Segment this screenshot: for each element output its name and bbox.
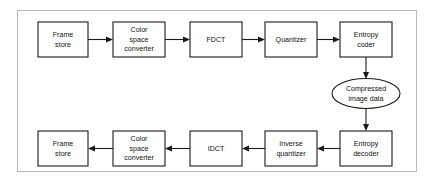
node-color-space-converter-in-line2: space [130, 36, 149, 44]
node-color-space-converter-out-line1: Color [131, 135, 149, 143]
node-entropy-coder-line2: coder [357, 41, 375, 49]
node-color-space-converter-out-line2: space [130, 145, 149, 153]
node-idct-label: IDCT [208, 145, 225, 153]
node-inverse-quantizer-line2: quantizer [276, 150, 306, 158]
node-compressed-image-data-line2: image data [348, 95, 383, 103]
node-fdct-label: FDCT [207, 36, 227, 44]
node-frame-store-in-line2: store [55, 41, 71, 49]
node-color-space-converter-in-line1: Color [131, 26, 149, 34]
node-frame-store-out-line2: store [55, 150, 71, 158]
node-entropy-coder [340, 22, 392, 57]
diagram-canvas: Frame store Color space converter FDCT Q… [0, 0, 433, 184]
node-entropy-decoder [340, 131, 392, 166]
node-frame-store-in-line1: Frame [53, 31, 74, 39]
node-inverse-quantizer [265, 131, 317, 166]
node-color-space-converter-in-line3: converter [124, 45, 154, 53]
node-compressed-image-data-line1: Compressed [346, 85, 386, 93]
node-entropy-decoder-line1: Entropy [354, 140, 379, 148]
jpeg-codec-diagram: Frame store Color space converter FDCT Q… [0, 0, 433, 184]
node-frame-store-out-line1: Frame [53, 140, 74, 148]
node-frame-store-out [38, 131, 88, 166]
node-quantizer-label: Quantizer [276, 36, 307, 44]
node-entropy-decoder-line2: decoder [353, 150, 379, 158]
node-inverse-quantizer-line1: Inverse [279, 140, 302, 148]
node-color-space-converter-out-line3: converter [124, 154, 154, 162]
node-compressed-image-data [332, 79, 400, 109]
node-frame-store-in [38, 22, 88, 57]
node-entropy-coder-line1: Entropy [354, 31, 379, 39]
